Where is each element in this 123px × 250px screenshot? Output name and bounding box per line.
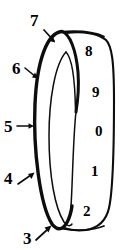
callout-label-7: 7 [30,12,39,29]
band-digit-0: 0 [95,124,103,139]
callout-arrow-6 [25,68,38,79]
callout-label-4: 4 [4,170,13,187]
band-digit-9: 9 [92,85,100,100]
callout-label-3: 3 [23,230,32,247]
band-digit-1: 1 [91,164,99,179]
callout-arrow-3 [36,226,52,241]
callout-label-6: 6 [12,60,21,77]
ring-near-rim-outer [35,32,72,229]
ring-inner-bore-left [49,52,72,226]
callout-label-5: 5 [4,118,13,135]
ring-band-drawing [0,0,123,250]
band-digit-2: 2 [83,204,91,219]
callout-arrow-4 [18,173,35,185]
ring-inner-bore-right [66,52,76,110]
callout-arrow-5 [17,123,34,128]
patent-figure: 7 6 5 4 3 8 9 0 1 2 [0,0,123,250]
band-digit-8: 8 [85,44,93,59]
ring-far-rim-inner [71,112,77,214]
